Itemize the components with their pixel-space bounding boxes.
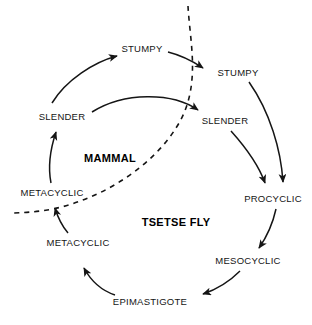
edge-slender-to-slender xyxy=(92,97,198,112)
node-fly-metacyclic: METACYCLIC xyxy=(46,237,109,248)
edge-stumpy-to-stumpy xyxy=(168,52,203,68)
edge-slender-to-procyclic xyxy=(231,131,265,183)
zone-label-tsetse-fly: TSETSE FLY xyxy=(142,216,211,228)
edge-metacyclic-to-metacyclic xyxy=(55,208,68,233)
node-fly-mesocyclic: MESOCYCLIC xyxy=(215,255,280,266)
edge-epimastigote-to-metacyclic xyxy=(84,268,115,295)
node-fly-stumpy: STUMPY xyxy=(217,67,258,78)
host-boundary-dashed-line xyxy=(10,6,193,213)
diagram-canvas: MAMMAL TSETSE FLY STUMPY STUMPY SLENDER … xyxy=(0,0,312,325)
node-mammal-stumpy: STUMPY xyxy=(121,43,162,54)
edge-stumpy-to-procyclic xyxy=(249,82,283,182)
edge-procyclic-to-mesocyclic xyxy=(259,209,276,248)
edge-metacyclic-to-slender xyxy=(50,132,56,183)
node-fly-epimastigote: EPIMASTIGOTE xyxy=(113,296,187,307)
zone-label-mammal: MAMMAL xyxy=(84,152,136,164)
node-mammal-slender: SLENDER xyxy=(39,111,86,122)
edge-slender-to-stumpy-mammal xyxy=(52,56,117,103)
node-mammal-metacyclic: METACYCLIC xyxy=(20,187,83,198)
edge-mesocyclic-to-epimastigote xyxy=(203,271,240,294)
node-fly-slender: SLENDER xyxy=(202,115,249,126)
node-fly-procyclic: PROCYCLIC xyxy=(244,193,302,204)
